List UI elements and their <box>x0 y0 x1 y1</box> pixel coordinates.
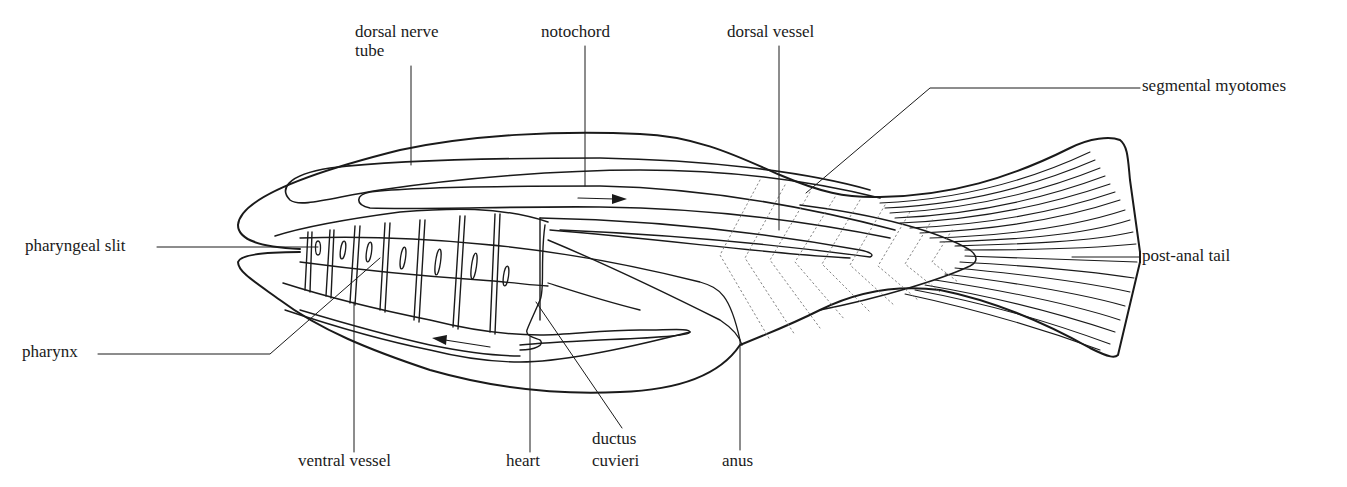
pharynx-top <box>275 209 548 236</box>
dorsal-vessel-line-lower <box>550 230 850 258</box>
label-pharynx: pharynx <box>22 342 78 361</box>
leader-pharynx <box>98 258 380 354</box>
label-ductus-cuvieri-2: cuvieri <box>592 451 639 470</box>
dorsal-vessel-line-upper <box>540 218 872 257</box>
pharynx-bottom <box>283 283 690 345</box>
label-dorsal-vessel: dorsal vessel <box>727 22 814 41</box>
chordate-body-drawing <box>0 0 1347 487</box>
dorsal-flow-arrow <box>578 194 627 204</box>
label-anus: anus <box>722 451 753 470</box>
segmental-myotomes <box>720 180 958 340</box>
heart <box>520 225 545 350</box>
dorsal-nerve-tube <box>286 158 880 203</box>
gill-bars <box>305 214 540 334</box>
notochord <box>359 186 895 238</box>
label-heart: heart <box>506 451 540 470</box>
ventral-flow-arrow <box>432 335 490 347</box>
label-notochord: notochord <box>541 22 610 41</box>
tail-fin-rays <box>880 152 1137 350</box>
tail-core <box>800 205 976 310</box>
label-pharyngeal-slit: pharyngeal slit <box>25 236 126 255</box>
chordate-diagram: dorsal nerve tube notochord dorsal vesse… <box>0 0 1347 487</box>
label-post-anal-tail: post-anal tail <box>1142 246 1230 265</box>
label-ductus-cuvieri-1: ductus <box>592 429 636 448</box>
leader-ductus-cuvieri <box>536 302 622 428</box>
label-dorsal-nerve-tube-1: dorsal nerve <box>355 22 439 41</box>
label-ventral-vessel: ventral vessel <box>298 451 391 470</box>
label-segmental-myotomes: segmental myotomes <box>1142 76 1286 95</box>
ductus-cuvieri <box>548 283 640 310</box>
pharynx-mid-line <box>300 262 548 286</box>
label-dorsal-nerve-tube-2: tube <box>355 41 384 60</box>
